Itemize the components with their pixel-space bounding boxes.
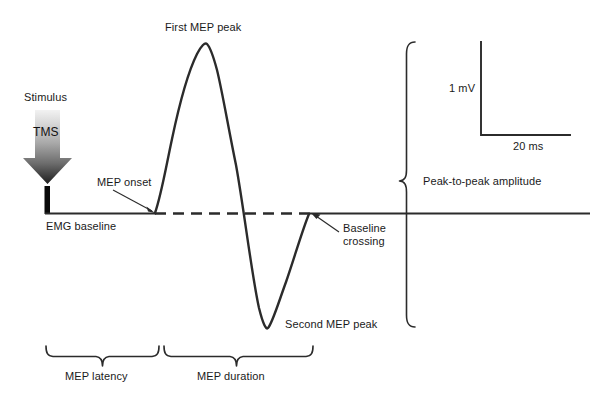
scale-bar-vertical-label: 1 mV <box>449 82 475 95</box>
scale-bar <box>481 42 570 135</box>
scale-bar-horizontal-label: 20 ms <box>513 140 543 153</box>
tms-label: TMS <box>33 126 59 139</box>
stimulus-artifact-bar <box>45 186 51 214</box>
baseline-crossing-label: Baseline crossing <box>343 222 413 248</box>
mep-duration-brace <box>164 346 313 366</box>
mep-onset-arrowhead-icon <box>147 207 156 214</box>
peak-to-peak-brace <box>400 42 416 327</box>
mep-latency-label: MEP latency <box>65 370 128 383</box>
emg-baseline-label: EMG baseline <box>46 220 116 233</box>
mep-waveform-figure: Stimulus TMS EMG baseline MEP onset Firs… <box>0 0 605 394</box>
mep-onset-label: MEP onset <box>97 176 152 189</box>
waveform-canvas <box>0 0 605 394</box>
mep-waveform-trace <box>155 43 309 328</box>
peak-to-peak-amplitude-label: Peak-to-peak amplitude <box>423 175 541 188</box>
second-mep-peak-label: Second MEP peak <box>285 318 377 331</box>
tms-arrow-icon <box>23 110 72 184</box>
mep-latency-brace <box>46 346 159 366</box>
mep-onset-leader-line <box>113 190 152 211</box>
stimulus-label: Stimulus <box>24 91 67 104</box>
baseline-crossing-leader-line <box>316 216 339 232</box>
baseline-crossing-label-line1: Baseline <box>343 222 386 234</box>
mep-duration-label: MEP duration <box>197 370 265 383</box>
first-mep-peak-label: First MEP peak <box>165 21 241 34</box>
baseline-crossing-label-line2: crossing <box>343 235 385 247</box>
